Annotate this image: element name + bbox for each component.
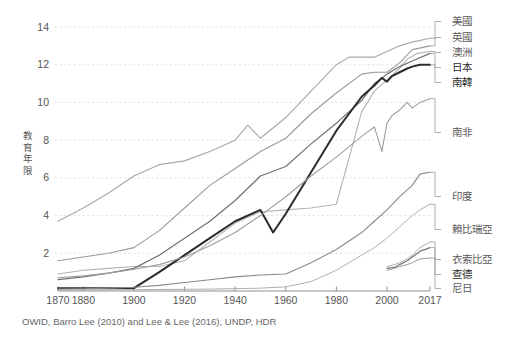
legend-leader-line (430, 99, 441, 133)
series-line (58, 65, 430, 288)
legend-leader-line (430, 38, 441, 46)
x-tick-label: 1940 (223, 294, 247, 306)
source-caption: OWID, Barro Lee (2010) and Lee & Lee (20… (22, 316, 276, 327)
y-axis-tick-labels: 2468101214 (37, 21, 49, 259)
series-line (58, 53, 430, 279)
series-lines (58, 38, 430, 290)
y-tick-label: 10 (37, 96, 49, 108)
y-tick-label: 14 (37, 21, 49, 33)
series-line (387, 242, 430, 267)
y-tick-label: 2 (43, 247, 49, 259)
x-tick-label: 2000 (375, 294, 399, 306)
years-of-schooling-line-chart: 2468101214 教育年限 187018801900192019401960… (0, 0, 507, 341)
legend-leader-lines (430, 22, 441, 289)
x-axis-tick-labels: 187018801900192019401960198020002017 (46, 294, 442, 306)
legend-label-查德[interactable]: 查德 (452, 268, 473, 280)
legend-label-尼日[interactable]: 尼日 (452, 282, 472, 294)
legend-leader-line (430, 52, 441, 53)
y-tick-label: 6 (43, 171, 49, 183)
legend-label-日本[interactable]: 日本 (452, 61, 473, 73)
x-tick-label: 1880 (72, 294, 96, 306)
x-tick-label: 1870 (46, 294, 70, 306)
legend-label-澳洲[interactable]: 澳洲 (452, 46, 472, 58)
series-line (58, 38, 430, 221)
series-line (58, 46, 430, 261)
x-tick-label: 1900 (122, 294, 146, 306)
x-tick-label: 2017 (418, 294, 442, 306)
y-tick-label: 8 (43, 134, 49, 146)
legend-leader-line (430, 22, 441, 39)
legend-leader-line (430, 53, 441, 67)
series-line (58, 99, 430, 278)
legend-leader-line (430, 258, 441, 289)
y-axis-title-char: 教 (23, 130, 33, 141)
legend-label-衣索比亞[interactable]: 衣索比亞 (452, 253, 492, 265)
chart-container: 2468101214 教育年限 187018801900192019401960… (0, 0, 507, 341)
legend-label-南非[interactable]: 南非 (452, 126, 473, 138)
legend-leader-line (430, 248, 441, 275)
y-tick-label: 12 (37, 58, 49, 70)
x-tick-label: 1960 (274, 294, 298, 306)
legend-leader-line (430, 242, 441, 260)
y-axis-title-char: 限 (23, 165, 33, 176)
legend-labels: 美國英國澳洲日本南韓南非印度賴比瑞亞衣索比亞查德尼日 (452, 15, 492, 294)
legend-leader-line (430, 204, 441, 229)
legend-label-印度[interactable]: 印度 (452, 190, 473, 202)
y-axis-title: 教育年限 (23, 130, 33, 176)
legend-label-賴比瑞亞[interactable]: 賴比瑞亞 (452, 223, 492, 235)
x-tick-label: 1920 (173, 294, 197, 306)
y-axis-title-char: 年 (23, 153, 33, 164)
x-tick-label: 1980 (325, 294, 349, 306)
legend-label-英國[interactable]: 英國 (452, 31, 472, 43)
legend-label-美國[interactable]: 美國 (452, 15, 472, 27)
legend-leader-line (430, 172, 441, 196)
legend-label-南韓[interactable]: 南韓 (452, 76, 472, 88)
y-tick-label: 4 (43, 209, 49, 221)
y-axis-title-char: 育 (23, 142, 33, 153)
